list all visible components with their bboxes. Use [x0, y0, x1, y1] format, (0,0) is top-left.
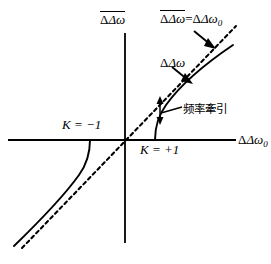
- asymptote-dashed-line: [22, 26, 236, 248]
- x-axis-label: ΔΔω0: [238, 133, 268, 149]
- frequency-pulling-label: 频率牽引: [183, 104, 227, 116]
- x-axis-label-subscript: 0: [263, 139, 268, 149]
- delta-omega-label-text: Δω: [168, 55, 185, 70]
- y-axis-label: ΔΔω: [100, 11, 125, 26]
- y-axis-label-text: Δω: [108, 12, 125, 27]
- k-minus-one-label: K = −1: [62, 118, 101, 131]
- asymptote-equation-equals: =: [185, 11, 192, 26]
- k-plus-one-label: K = +1: [140, 143, 179, 156]
- asymptote-equation-left: Δω: [168, 11, 185, 26]
- frequency-pulling-diagram: ΔΔω ΔΔω=ΔΔω0 ΔΔω 频率牽引 K = −1 K = +1 ΔΔω0: [0, 0, 271, 264]
- asymptote-equation-label: ΔΔω=ΔΔω0: [160, 10, 222, 28]
- k-equals-minus-one-branch: [14, 140, 90, 246]
- diagram-canvas: [0, 0, 271, 264]
- asymptote-equation-subscript: 0: [218, 18, 223, 28]
- x-axis-label-text: Δω: [246, 132, 263, 147]
- asymptote-equation-right: Δω: [201, 11, 218, 26]
- delta-omega-label: ΔΔω: [160, 56, 185, 69]
- figure-caption: [0, 252, 271, 264]
- diagonal-pointer-arrow: [194, 31, 216, 49]
